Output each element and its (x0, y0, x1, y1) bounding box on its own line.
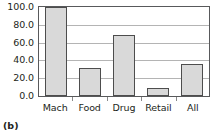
x-axis-label-retail: Retail (141, 100, 175, 116)
plot-frame (38, 6, 210, 97)
bar-slot (39, 7, 73, 96)
figure-caption: (b) (3, 120, 18, 132)
y-axis-tick-label: 60.0 (13, 38, 34, 48)
bar-slot (175, 7, 209, 96)
bar-all[interactable] (181, 64, 202, 96)
bar-slot (141, 7, 175, 96)
bar-mach[interactable] (45, 7, 66, 96)
bar-retail[interactable] (147, 88, 168, 96)
bar-series (39, 7, 209, 96)
bar-slot (107, 7, 141, 96)
y-axis-tick-labels: 100.0 80.0 60.0 40.0 20.0 0.0 (0, 0, 36, 104)
x-axis-label-drug: Drug (107, 100, 141, 116)
bar-chart: 100.0 80.0 60.0 40.0 20.0 0.0 MachFoodDr… (0, 0, 217, 104)
y-axis-tick-label: 20.0 (13, 73, 34, 83)
x-axis-label-all: All (176, 100, 210, 116)
y-axis-tick-label: 0.0 (19, 91, 34, 101)
y-axis-tick-label: 40.0 (13, 55, 34, 65)
x-axis-label-mach: Mach (38, 100, 72, 116)
x-axis-category-labels: MachFoodDrugRetailAll (38, 100, 210, 116)
figure-panel-b: 100.0 80.0 60.0 40.0 20.0 0.0 MachFoodDr… (0, 0, 217, 138)
y-axis-tick-label: 80.0 (13, 20, 34, 30)
bar-slot (73, 7, 107, 96)
bar-food[interactable] (79, 68, 100, 96)
y-axis-tick-label: 100.0 (7, 2, 34, 12)
x-axis-label-food: Food (72, 100, 106, 116)
bar-drug[interactable] (113, 35, 134, 96)
